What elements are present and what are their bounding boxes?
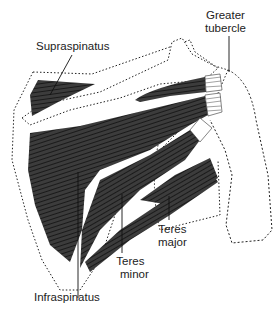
label-teres-minor: Teres minor	[112, 255, 149, 281]
label-teres-major: Teres major	[158, 223, 187, 249]
label-infraspinatus: Infraspinatus	[34, 291, 100, 304]
label-supraspinatus: Supraspinatus	[36, 40, 110, 53]
label-greater-tubercle: Greater tubercle	[205, 9, 246, 35]
rotator-cuff-diagram: Greater tubercle Supraspinatus Teres maj…	[0, 0, 278, 316]
